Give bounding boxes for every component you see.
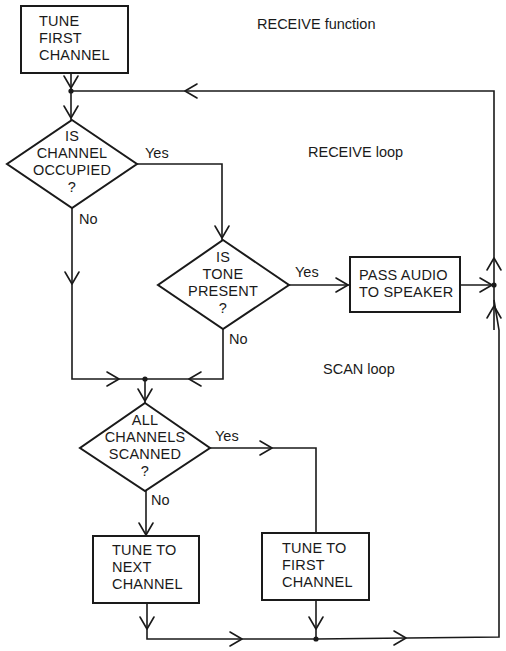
annotation-receive-loop: RECEIVE loop bbox=[308, 144, 403, 160]
node-text-tune-first-channel-start: TUNE FIRST CHANNEL bbox=[39, 13, 110, 64]
edge-occupied-yes bbox=[137, 164, 222, 240]
node-text-tune-to-next-channel: TUNE TO NEXT CHANNEL bbox=[112, 542, 183, 593]
edge-label-tone-yes: Yes bbox=[295, 264, 319, 280]
node-text-is-tone-present: IS TONE PRESENT ? bbox=[173, 249, 273, 317]
edge-occupied-no bbox=[72, 208, 145, 379]
edge-tone-no bbox=[145, 329, 223, 379]
annotation-receive-function: RECEIVE function bbox=[257, 16, 375, 32]
edge-label-tone-no: No bbox=[229, 331, 248, 347]
flowchart-canvas bbox=[0, 0, 506, 651]
edge-label-scanned-yes: Yes bbox=[215, 428, 239, 444]
junction-dot bbox=[313, 636, 318, 641]
node-text-pass-audio: PASS AUDIO TO SPEAKER bbox=[359, 267, 453, 301]
annotation-scan-loop: SCAN loop bbox=[323, 361, 395, 377]
edge-label-occupied-yes: Yes bbox=[145, 145, 169, 161]
edge-scanned-yes bbox=[210, 448, 316, 533]
node-text-is-channel-occupied: IS CHANNEL OCCUPIED ? bbox=[22, 128, 122, 196]
junction-dot bbox=[68, 88, 73, 93]
node-text-all-channels-scanned: ALL CHANNELS SCANNED ? bbox=[95, 412, 195, 480]
node-text-tune-to-first-channel: TUNE TO FIRST CHANNEL bbox=[282, 540, 353, 591]
junction-dot bbox=[142, 376, 147, 381]
edge-label-occupied-no: No bbox=[79, 211, 98, 227]
junction-dot bbox=[491, 282, 496, 287]
edge-label-scanned-no: No bbox=[151, 492, 170, 508]
